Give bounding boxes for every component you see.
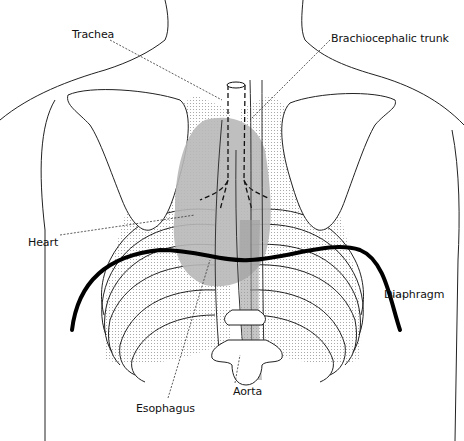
label-esophagus: Esophagus (136, 402, 195, 415)
label-aorta: Aorta (233, 385, 262, 398)
label-diaphragm: Diaphragm (384, 288, 444, 301)
anatomy-figure: Trachea Brachiocephalic trunk Heart Diap… (0, 0, 464, 441)
label-brachiocephalic-trunk: Brachiocephalic trunk (331, 32, 449, 45)
label-heart: Heart (28, 236, 58, 249)
thorax-illustration (0, 0, 464, 441)
label-trachea: Trachea (72, 28, 114, 41)
